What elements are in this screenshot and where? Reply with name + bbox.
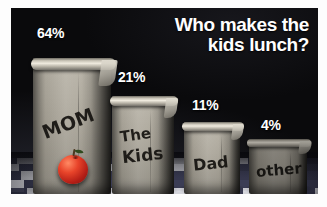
bar-other: other (249, 139, 307, 194)
bag-label-dad: Dad (192, 152, 229, 175)
title-line-2: kids lunch? (127, 35, 309, 55)
title-line-1: Who makes the (127, 15, 309, 35)
infographic-root: Who makes the kids lunch? 64% 21% 11% 4%… (0, 0, 327, 207)
bag-top-flap (164, 98, 179, 118)
value-label-dad: 11% (192, 98, 218, 112)
value-label-kids: 21% (118, 70, 145, 84)
bar-dad: Dad (184, 122, 240, 194)
apple (58, 155, 88, 184)
bag-body: Dad (184, 122, 240, 194)
value-label-other: 4% (261, 118, 281, 132)
bag-label-kids-line1: The (119, 124, 152, 146)
bag-body: The Kids (112, 96, 174, 194)
bag-label-other: other (255, 159, 302, 181)
bag-top-flap (231, 124, 244, 140)
page-title: Who makes the kids lunch? (127, 15, 309, 55)
bar-the-kids: The Kids (112, 96, 174, 194)
photo-plate: Who makes the kids lunch? 64% 21% 11% 4%… (11, 8, 318, 194)
bag-body: other (249, 139, 307, 194)
value-label-mom: 64% (37, 26, 64, 40)
bag-top-flap (98, 60, 117, 86)
bag-label-mom: MOM (39, 103, 97, 143)
